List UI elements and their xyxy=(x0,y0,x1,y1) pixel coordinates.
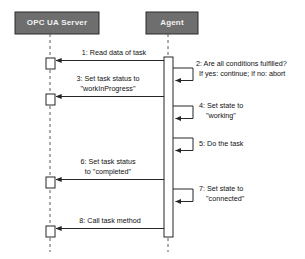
message-arrow-2[interactable] xyxy=(173,68,193,81)
message-label-1-line1: 1: Read data of task xyxy=(62,48,166,58)
participant-box-agent[interactable] xyxy=(146,12,198,34)
sequence-diagram: OPC UA Server Agent 1: Read data of task… xyxy=(0,0,305,259)
message-arrow-4[interactable] xyxy=(173,106,193,119)
message-label-2-line2: If yes: continue; if no: abort xyxy=(199,69,304,79)
message-arrow-7[interactable] xyxy=(173,189,193,202)
activation-bar-opc-ua-server-1 xyxy=(46,58,55,69)
message-label-6-line1: 6: Set task status xyxy=(56,157,160,167)
message-label-4-line2: "working" xyxy=(206,111,304,121)
message-label-6-line2: to "completed" xyxy=(56,167,160,177)
message-label-8-line1: 8: Call task method xyxy=(58,216,162,226)
participant-box-opc-ua-server[interactable] xyxy=(15,12,99,34)
activation-bar-opc-ua-server-4 xyxy=(46,226,55,237)
message-label-3-line1: 3: Set task status to xyxy=(56,74,160,84)
message-label-7-line1: 7: Set state to xyxy=(199,184,304,194)
message-label-3-line2: "workInProgress" xyxy=(56,84,160,94)
activation-bar-opc-ua-server-3 xyxy=(46,177,55,188)
activation-bar-opc-ua-server-2 xyxy=(46,94,55,105)
activation-bar-agent xyxy=(164,57,173,237)
message-label-4-line1: 4: Set state to xyxy=(199,101,304,111)
message-label-5-line1: 5: Do the task xyxy=(199,139,304,149)
message-label-2-line1: 2: Are all conditions fulfilled? xyxy=(196,59,304,69)
message-arrow-5[interactable] xyxy=(173,138,193,151)
message-label-7-line2: "connected" xyxy=(206,194,304,204)
